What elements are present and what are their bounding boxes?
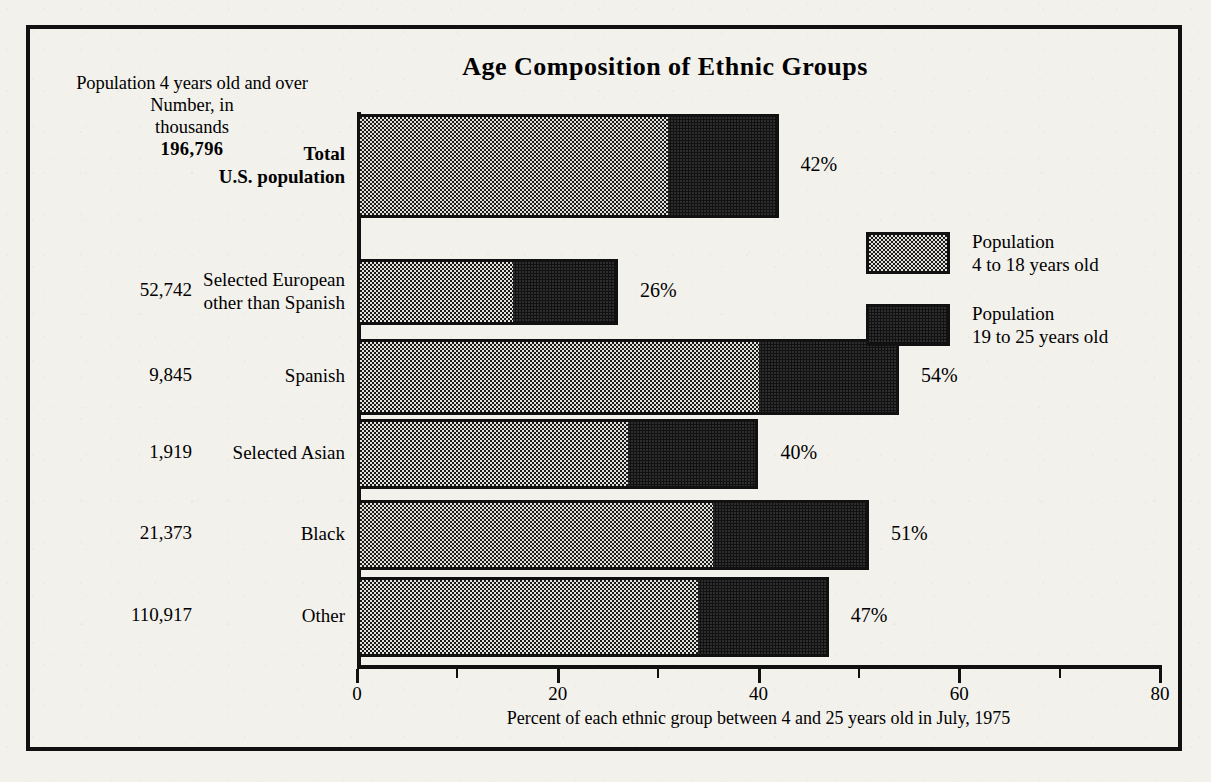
x-tick-label-0: 0 [327,683,387,705]
x-tick-label-60: 60 [929,683,989,705]
bar-total-percent-label: 47% [851,604,888,627]
x-tick-label-20: 20 [528,683,588,705]
bar-segment-age-4-18 [357,500,713,570]
x-minor-tick-10 [456,669,458,678]
header-line-3: thousands [42,116,342,138]
bar-segment-age-4-18 [357,259,513,325]
row-category-label-line1: Spanish [160,364,345,387]
x-minor-tick-50 [858,669,860,678]
legend-swatch-light [866,232,950,274]
bar-row [357,114,779,218]
bar-segment-age-19-25 [698,577,828,657]
bar-segment-age-4-18 [357,114,668,218]
bar-segment-age-19-25 [713,500,869,570]
bar-segment-age-19-25 [513,259,618,325]
bar-total-percent-label: 51% [891,522,928,545]
x-tick-60 [958,669,961,683]
bar-total-percent-label: 26% [640,279,677,302]
chart-page: Age Composition of Ethnic Groups Populat… [0,0,1211,782]
row-category-label: TotalU.S. population [160,142,345,188]
row-category-label-line1: Selected Asian [160,441,345,464]
bar-segment-age-4-18 [357,339,759,415]
legend-label-line2: 4 to 18 years old [972,253,1099,276]
x-minor-tick-70 [1059,669,1061,678]
header-line-2: Number, in [42,94,342,116]
bar-segment-age-19-25 [628,419,758,489]
legend-label-line1: Population [972,230,1099,253]
chart-title: Age Composition of Ethnic Groups [355,52,975,82]
legend-swatch-dark [866,304,950,346]
row-category-label-line1: Selected European [160,268,345,291]
legend-label: Population19 to 25 years old [972,302,1108,348]
x-tick-0 [356,669,359,683]
bar-row [357,500,869,570]
legend-label-line1: Population [972,302,1108,325]
bar-row [357,577,829,657]
x-tick-label-40: 40 [729,683,789,705]
row-category-label-line1: Total [160,142,345,165]
legend-label: Population4 to 18 years old [972,230,1099,276]
row-category-label: Selected Europeanother than Spanish [160,268,345,314]
row-category-label-line2: other than Spanish [160,291,345,314]
x-tick-40 [758,669,761,683]
row-category-label: Other [160,604,345,627]
bar-total-percent-label: 42% [801,153,838,176]
x-tick-80 [1159,669,1162,683]
bar-row [357,339,899,415]
header-line-1: Population 4 years old and over [42,72,342,94]
bar-segment-age-19-25 [668,114,778,218]
x-tick-label-80: 80 [1130,683,1190,705]
bar-row [357,259,618,325]
row-category-label-line1: Black [160,522,345,545]
bar-total-percent-label: 40% [781,441,818,464]
row-category-label-line2: U.S. population [160,165,345,188]
row-category-label: Spanish [160,364,345,387]
x-minor-tick-30 [657,669,659,678]
x-axis-caption: Percent of each ethnic group between 4 a… [357,708,1160,729]
row-category-label-line1: Other [160,604,345,627]
row-category-label: Selected Asian [160,441,345,464]
bar-row [357,419,759,489]
bar-segment-age-4-18 [357,577,698,657]
bar-segment-age-19-25 [759,339,900,415]
legend-label-line2: 19 to 25 years old [972,325,1108,348]
bar-total-percent-label: 54% [921,364,958,387]
row-category-label: Black [160,522,345,545]
x-tick-20 [557,669,560,683]
bar-segment-age-4-18 [357,419,628,489]
